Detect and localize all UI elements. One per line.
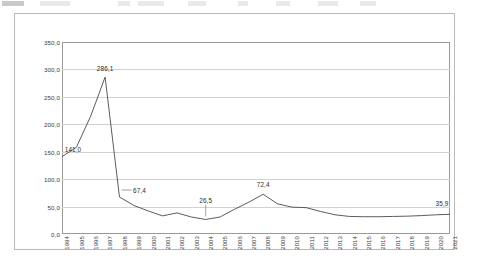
x-tick-label: 2016 xyxy=(380,236,386,250)
x-tick-label: 2010 xyxy=(294,236,300,250)
y-tick-label: 200,0 xyxy=(44,121,60,128)
x-tick-label: 1999 xyxy=(136,236,142,250)
x-tick-label: 2004 xyxy=(208,236,214,250)
scan-blotch xyxy=(238,1,248,6)
data-label: 26,5 xyxy=(199,197,212,204)
data-label: 35,9 xyxy=(436,200,449,207)
data-label: 67,4 xyxy=(133,187,146,194)
x-tick-label: 2007 xyxy=(251,236,257,250)
scan-blotch xyxy=(318,1,338,6)
x-tick-label: 2018 xyxy=(409,236,415,250)
x-tick-label: 2021 xyxy=(452,236,458,250)
x-tick-label: 2000 xyxy=(151,236,157,250)
scan-blotch xyxy=(188,1,206,6)
scan-blotch xyxy=(118,1,130,6)
line-series xyxy=(62,42,450,234)
y-tick-label: 0,0 xyxy=(51,231,60,238)
x-tick-label: 2005 xyxy=(222,236,228,250)
x-tick-label: 2020 xyxy=(438,236,444,250)
x-tick-label: 1997 xyxy=(107,236,113,250)
scan-blotch xyxy=(138,1,164,6)
scan-blotch xyxy=(2,1,24,6)
x-tick-label: 1998 xyxy=(122,236,128,250)
y-axis-tick-labels: 350,0300,0250,0200,0150,0100,050,00,0 xyxy=(29,42,60,234)
x-tick-label: 1995 xyxy=(79,236,85,250)
y-tick-label: 350,0 xyxy=(44,39,60,46)
x-tick-label: 1996 xyxy=(93,236,99,250)
y-tick-label: 300,0 xyxy=(44,66,60,73)
x-axis-tick-labels: 1994199519961997199819992000200120022003… xyxy=(62,236,450,268)
x-tick-label: 2009 xyxy=(280,236,286,250)
scan-blotch xyxy=(40,1,70,6)
y-tick-label: 150,0 xyxy=(44,148,60,155)
x-tick-label: 2008 xyxy=(265,236,271,250)
x-tick-label: 2011 xyxy=(309,236,315,249)
y-tick-label: 250,0 xyxy=(44,93,60,100)
series-line xyxy=(62,77,450,219)
x-tick-label: 2003 xyxy=(194,236,200,250)
x-tick-label: 2013 xyxy=(337,236,343,250)
x-tick-label: 2015 xyxy=(366,236,372,250)
x-tick-label: 2017 xyxy=(395,236,401,250)
x-tick-label: 2002 xyxy=(179,236,185,250)
plot-area: 141,0286,167,426,572,435,9 xyxy=(62,42,450,234)
data-label: 141,0 xyxy=(65,145,82,152)
x-tick-label: 2006 xyxy=(237,236,243,250)
data-label: 72,4 xyxy=(257,181,270,188)
x-tick-label: 1994 xyxy=(64,236,70,250)
scan-blotch xyxy=(360,1,376,6)
x-tick-label: 2019 xyxy=(424,236,430,250)
y-tick-label: 50,0 xyxy=(48,203,60,210)
data-label: 286,1 xyxy=(97,65,114,72)
scan-artifact-strip xyxy=(0,0,477,9)
chart-frame: 350,0300,0250,0200,0150,0100,050,00,0 14… xyxy=(14,13,455,250)
x-tick-label: 2014 xyxy=(352,236,358,250)
scan-blotch xyxy=(276,1,290,6)
x-tick-label: 2001 xyxy=(165,236,171,250)
y-tick-label: 100,0 xyxy=(44,176,60,183)
x-tick-label: 2012 xyxy=(323,236,329,250)
